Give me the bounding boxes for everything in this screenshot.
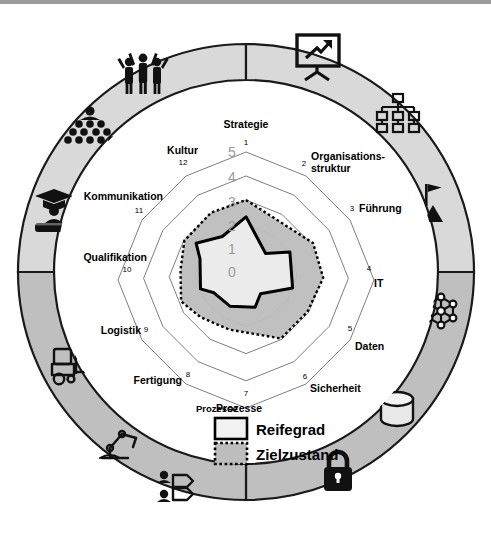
axis-label-logistik: Logistik bbox=[101, 324, 141, 336]
legend-swatch-reifegrad[interactable] bbox=[215, 418, 247, 439]
figure-svg: 0 1 2 3 4 5 1 2 3 4 5 6 7 8 9 10 11 12 S… bbox=[0, 0, 491, 535]
axis-number-12: 12 bbox=[179, 158, 188, 167]
axis-number-7: 7 bbox=[244, 389, 249, 398]
axis-label-it: IT bbox=[374, 277, 384, 289]
scale-label-3: 3 bbox=[228, 194, 236, 210]
axis-number-8: 8 bbox=[186, 370, 191, 379]
axis-number-6: 6 bbox=[303, 372, 308, 381]
axis-number-1: 1 bbox=[244, 138, 249, 147]
scale-label-0: 0 bbox=[228, 264, 236, 280]
scale-label-5: 5 bbox=[228, 144, 236, 160]
legend-group-title: Prozesse bbox=[196, 403, 238, 414]
axis-number-3: 3 bbox=[350, 204, 355, 213]
axis-number-9: 9 bbox=[144, 325, 149, 334]
axis-number-4: 4 bbox=[367, 264, 372, 273]
process-flow-icon bbox=[157, 471, 193, 502]
axis-number-10: 10 bbox=[123, 265, 132, 274]
axis-label-sicherheit: Sicherheit bbox=[310, 382, 361, 394]
axis-label-fuehrung: Führung bbox=[359, 202, 402, 214]
axis-number-2: 2 bbox=[302, 159, 307, 168]
axis-number-5: 5 bbox=[348, 324, 353, 333]
axis-label-kultur: Kultur bbox=[167, 144, 198, 156]
legend-swatch-zielzustand[interactable] bbox=[215, 443, 247, 464]
axis-label-org-line1: Organisations- bbox=[311, 150, 386, 162]
axis-label-daten: Daten bbox=[355, 340, 384, 352]
axis-label-kommunikation: Kommunikation bbox=[84, 190, 163, 202]
axis-label-strategie: Strategie bbox=[224, 118, 269, 130]
axis-label-fertigung: Fertigung bbox=[134, 374, 182, 386]
axis-label-qualifikation: Qualifikation bbox=[83, 251, 147, 263]
legend-label-zielzustand: Zielzustand bbox=[256, 446, 339, 463]
axis-number-11: 11 bbox=[135, 206, 144, 215]
legend-label-reifegrad: Reifegrad bbox=[256, 421, 325, 438]
scale-label-4: 4 bbox=[228, 169, 236, 185]
maturity-model-figure: 0 1 2 3 4 5 1 2 3 4 5 6 7 8 9 10 11 12 S… bbox=[0, 0, 491, 535]
scale-label-1: 1 bbox=[228, 241, 236, 257]
axis-label-org-line2: struktur bbox=[311, 162, 351, 174]
scale-label-2: 2 bbox=[228, 218, 236, 234]
